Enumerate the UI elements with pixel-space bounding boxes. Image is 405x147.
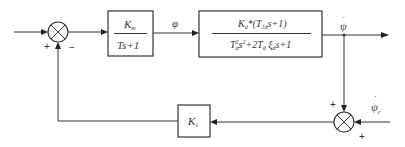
summing-junction-input	[48, 22, 68, 42]
arrow-to-feedback-gain	[210, 119, 217, 125]
input-arrow	[41, 29, 48, 35]
feedback-gain-block: K1	[178, 105, 210, 137]
actuator-denominator: Ts+1	[117, 39, 139, 51]
actuator-block: Km Ts+1	[108, 11, 153, 56]
arrow-reference	[354, 119, 361, 125]
psi-c-dot: ·	[374, 91, 377, 101]
arrow-to-plant	[192, 30, 199, 36]
psi-c-label: ψc	[371, 101, 381, 115]
sign-plus-input: +	[44, 41, 50, 52]
arrow-to-actuator	[101, 29, 108, 35]
phi-label: φ	[172, 17, 178, 29]
block-diagram: + − Km Ts+1 φ Kd*(T1ds+1) T2ds2+2Td ξds+…	[0, 0, 405, 147]
output-arrow	[381, 32, 389, 38]
psi-output-dot: ·	[342, 12, 345, 22]
plant-block: Kd*(T1ds+1) T2ds2+2Td ξds+1	[199, 11, 322, 57]
arrow-to-feedback-junction	[341, 105, 347, 112]
summing-junction-feedback	[334, 112, 354, 132]
arrow-to-input-junction	[55, 42, 61, 49]
sign-minus-feedback: −	[69, 42, 75, 53]
sign-plus-output: +	[330, 99, 336, 110]
sign-plus-reference: +	[359, 131, 365, 142]
plant-denominator: T2ds2+2Td ξds+1	[230, 39, 291, 51]
